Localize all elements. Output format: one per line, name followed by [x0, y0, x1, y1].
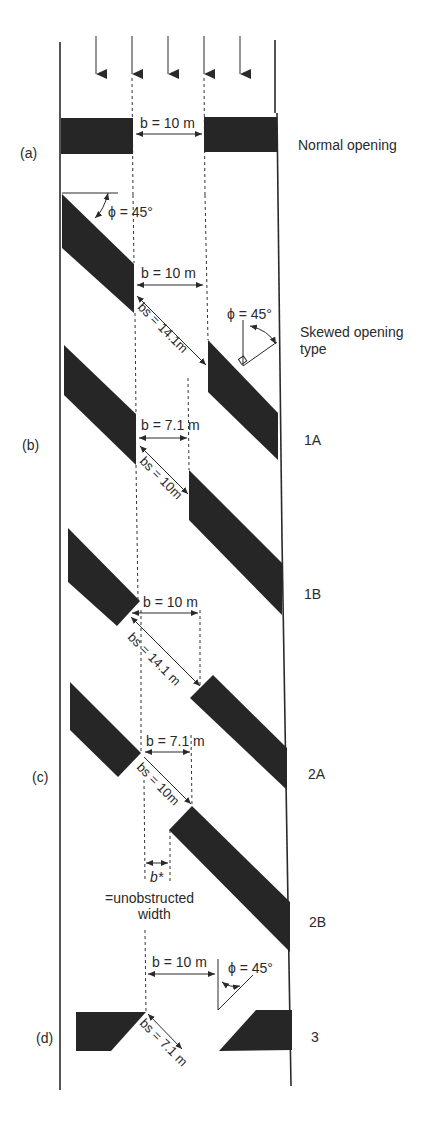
- right-channel-wall-lower: [282, 540, 291, 1086]
- panel-label: (b): [22, 437, 39, 453]
- type-label-line1: Skewed opening: [300, 324, 404, 340]
- dim-b: b = 10 m: [140, 115, 195, 131]
- phi-right: ϕ = 45°: [227, 306, 272, 322]
- pier-skew-left: [64, 345, 136, 465]
- panel-label: (d): [36, 1030, 53, 1046]
- dim-b: b = 7.1 m: [141, 417, 200, 433]
- dim-bs: bs = 14.1 m: [125, 630, 184, 689]
- panel-c-2a: b = 7.1 m bs = 10m b* =unobstructed widt…: [32, 682, 326, 952]
- dim-b: b = 10 m: [141, 265, 196, 281]
- panel-b-1a: b = 7.1 m bs = 10m (b) 1A: [22, 345, 322, 615]
- pier-skew-left: [68, 528, 140, 626]
- dim-bs: bs = 10m: [137, 454, 186, 503]
- panel-d-3: b = 10 m ϕ = 45° bs = 7.1 m (d) 3: [36, 954, 319, 1069]
- type-label: 2A: [308, 766, 326, 782]
- type-label: 1B: [304, 586, 321, 602]
- dim-b: b = 7.1 m: [146, 733, 205, 749]
- pier-right: [204, 117, 277, 152]
- panel-2b: 2B: [309, 914, 326, 930]
- dim-b: b = 10 m: [152, 954, 207, 970]
- panel-label: (c): [32, 769, 48, 785]
- phi: ϕ = 45°: [228, 960, 273, 976]
- pier-skew-right: [169, 806, 290, 952]
- dim-bstar: b*: [150, 869, 164, 885]
- flow-arrows: [96, 36, 240, 74]
- pier-right: [219, 1010, 292, 1051]
- right-channel-wall-upper: [277, 113, 282, 540]
- phi-left: ϕ = 45°: [108, 204, 153, 220]
- pier-skew-right: [189, 470, 282, 615]
- panel-a: b = 10 m (a) Normal opening: [20, 115, 397, 161]
- dim-b: b = 10 m: [143, 594, 198, 610]
- unobstructed-line2: width: [137, 906, 171, 922]
- pier-left: [61, 118, 133, 154]
- type-label: 2B: [309, 914, 326, 930]
- pier-left: [76, 1012, 146, 1051]
- dim-bs: bs = 14.1m: [135, 300, 191, 356]
- type-label: 3: [311, 1029, 319, 1045]
- dim-bs: bs = 7.1 m: [137, 1016, 191, 1070]
- pier-skew-left: [70, 682, 141, 777]
- type-label-line2: type: [300, 341, 327, 357]
- type-label: 1A: [304, 432, 322, 448]
- unobstructed-line1: =unobstructed: [105, 890, 194, 906]
- panel-label: (a): [20, 145, 37, 161]
- bridge-opening-diagram: b = 10 m (a) Normal opening ϕ = 45° b = …: [0, 0, 437, 1121]
- dim-bs: bs = 10m: [134, 760, 183, 809]
- type-label: Normal opening: [298, 137, 397, 153]
